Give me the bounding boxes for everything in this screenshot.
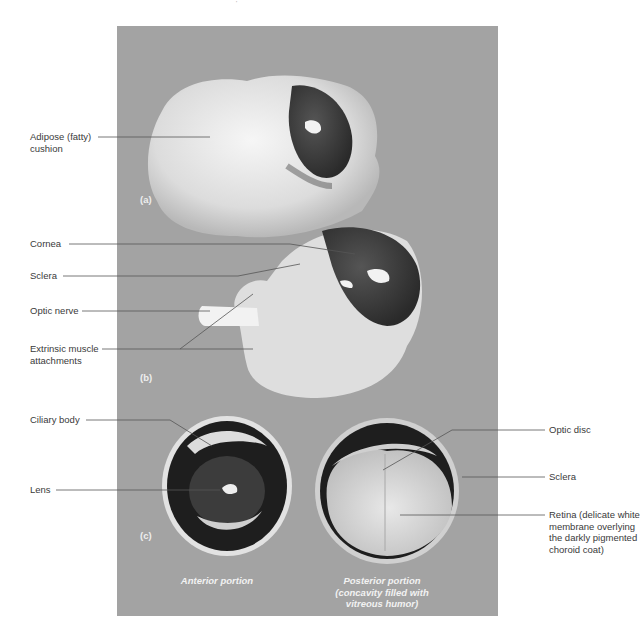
label-retina-line2: membrane overlying	[549, 521, 640, 533]
eye-a	[148, 76, 380, 238]
label-retina-line3: the darkly pigmented	[549, 532, 640, 544]
label-cornea: Cornea	[30, 238, 61, 250]
label-sclera-c-text: Sclera	[549, 471, 576, 482]
caption-anterior-portion: Anterior portion	[162, 575, 272, 587]
label-adipose-cushion: Adipose (fatty) cushion	[30, 131, 91, 154]
caption-posterior-line2: (concavity filled with	[312, 587, 452, 599]
label-sclera-c: Sclera	[549, 471, 576, 483]
label-adipose-line2: cushion	[30, 143, 91, 155]
label-optic-disc: Optic disc	[549, 424, 591, 436]
eye-c-anterior	[162, 416, 292, 556]
label-extrinsic-line2: attachments	[30, 355, 99, 367]
label-retina-line1: Retina (delicate white	[549, 509, 640, 521]
eye-b	[199, 227, 422, 398]
panel-letter-b: (b)	[140, 372, 152, 383]
label-optic-nerve: Optic nerve	[30, 305, 79, 317]
label-extrinsic-muscle-attachments: Extrinsic muscle attachments	[30, 343, 99, 366]
top-mark: '	[236, 0, 237, 6]
label-sclera-b-text: Sclera	[30, 270, 57, 281]
label-lens: Lens	[30, 484, 51, 496]
label-extrinsic-line1: Extrinsic muscle	[30, 343, 99, 355]
label-cornea-text: Cornea	[30, 238, 61, 249]
caption-posterior-line3: vitreous humor)	[312, 598, 452, 610]
label-retina-line4: choroid coat)	[549, 544, 640, 556]
label-optic-nerve-text: Optic nerve	[30, 305, 79, 316]
caption-anterior-text: Anterior portion	[181, 575, 253, 586]
eye-c-posterior	[315, 418, 459, 564]
label-sclera-b: Sclera	[30, 270, 57, 282]
label-retina: Retina (delicate white membrane overlyin…	[549, 509, 640, 555]
caption-posterior-line1: Posterior portion	[312, 575, 452, 587]
label-adipose-line1: Adipose (fatty)	[30, 131, 91, 143]
label-lens-text: Lens	[30, 484, 51, 495]
label-optic-disc-text: Optic disc	[549, 424, 591, 435]
caption-posterior-portion: Posterior portion (concavity filled with…	[312, 575, 452, 610]
panel-letter-c: (c)	[140, 530, 152, 541]
label-ciliary-body: Ciliary body	[30, 414, 80, 426]
eye-dissection-photo: (a) (b) (c) Anterior portion Posterior p…	[117, 26, 498, 616]
panel-letter-a: (a)	[140, 194, 152, 205]
label-ciliary-body-text: Ciliary body	[30, 414, 80, 425]
